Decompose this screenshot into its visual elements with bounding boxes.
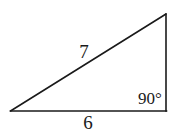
right-angle-label: 90° — [138, 89, 162, 108]
hypotenuse-label: 7 — [79, 41, 89, 62]
right-triangle-diagram: 7 90° 6 — [0, 0, 186, 129]
base-label: 6 — [83, 112, 93, 129]
